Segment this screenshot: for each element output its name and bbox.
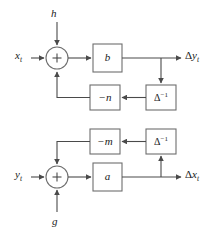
block-diagram-figure: b Δ−1 −n xt h Δyt −m — [0, 0, 213, 236]
top-feedback-return-wire — [57, 72, 90, 98]
top-gain-block-b-label: b — [105, 51, 111, 63]
bottom-feedback-return-wire — [57, 142, 90, 165]
bottom-external-input-label: g — [52, 215, 58, 227]
bottom-gain-block-a-label: a — [105, 170, 111, 182]
diagram-canvas: b Δ−1 −n xt h Δyt −m — [0, 0, 213, 236]
bottom-diagram-group: −m Δ−1 a — [14, 129, 200, 227]
bottom-output-label: Δxt — [185, 168, 200, 183]
top-external-input-label: h — [51, 7, 57, 19]
top-diagram-group: b Δ−1 −n xt h Δyt — [14, 7, 200, 110]
top-input-label: xt — [14, 49, 23, 64]
bottom-feedback-gain-block-m-label: −m — [97, 135, 112, 147]
top-feedback-gain-block-n-label: −n — [99, 91, 112, 103]
top-output-label: Δyt — [185, 49, 200, 64]
bottom-input-label: yt — [14, 168, 23, 183]
